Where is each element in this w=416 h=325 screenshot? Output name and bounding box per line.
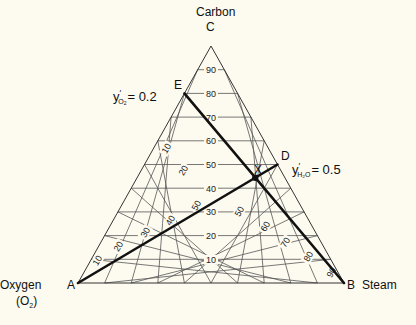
oxygen-label: Oxygen xyxy=(0,278,41,292)
carbon-tick-label: 20 xyxy=(206,231,216,241)
carbon-tick-label: 50 xyxy=(206,160,216,170)
point-d-label: D xyxy=(281,149,290,163)
annotation-y-o2: y′O2= 0.2 xyxy=(113,88,157,106)
line-a-to-d xyxy=(78,165,278,284)
steam-label: Steam xyxy=(362,278,397,292)
carbon-label: Carbon xyxy=(196,5,235,19)
ternary-diagram: 1020304050607080901020102030405050607080… xyxy=(0,0,416,325)
carbon-tick-label: 10 xyxy=(206,255,216,265)
vertex-c-label: C xyxy=(206,20,215,34)
carbon-tick-label: 60 xyxy=(206,136,216,146)
vertex-b-label: B xyxy=(347,278,355,292)
annotation-y-h2o: y′H₂O= 0.5 xyxy=(292,161,341,178)
point-x-label: X xyxy=(254,163,262,177)
carbon-tick-label: 40 xyxy=(206,184,216,194)
carbon-tick-label: 90 xyxy=(206,65,216,75)
vertex-a-label: A xyxy=(67,278,75,292)
carbon-tick-label: 30 xyxy=(206,207,216,217)
point-e-label: E xyxy=(174,78,182,92)
oxygen-formula: (O2) xyxy=(16,294,37,309)
carbon-tick-label: 80 xyxy=(206,89,216,99)
